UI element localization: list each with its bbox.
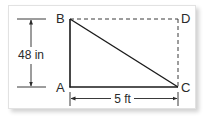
dim-vertical-label: 48 in bbox=[18, 48, 44, 62]
edge-bc-hypotenuse bbox=[70, 19, 178, 87]
triangle-diagram: 48 in 5 ft B A C D bbox=[0, 0, 209, 122]
vertex-label-a: A bbox=[56, 80, 65, 95]
vertex-label-b: B bbox=[56, 11, 65, 26]
vertex-label-d: D bbox=[181, 11, 190, 26]
vertex-label-c: C bbox=[181, 80, 190, 95]
dim-horizontal-label: 5 ft bbox=[114, 92, 131, 106]
